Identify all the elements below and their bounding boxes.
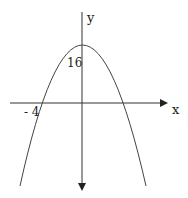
y-intercept-label: 16 [67, 56, 82, 70]
parabola-graph: y x 16 - 4 [0, 0, 188, 198]
y-axis-arrow-icon [78, 183, 86, 191]
x-intercept-label: - 4 [24, 105, 40, 119]
x-axis-arrow-icon [160, 99, 168, 107]
x-axis-label: x [172, 102, 180, 117]
y-axis-label: y [86, 10, 95, 25]
